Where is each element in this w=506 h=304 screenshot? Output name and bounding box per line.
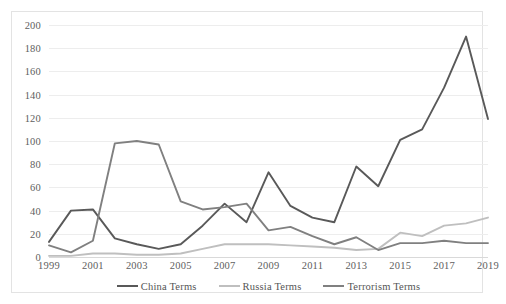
line-chart: 020406080100120140160180200 199920012003… <box>0 0 506 304</box>
y-tick-label: 140 <box>25 89 41 100</box>
y-axis-labels: 020406080100120140160180200 <box>12 25 45 257</box>
legend-item-china-terms[interactable]: China Terms <box>117 281 197 292</box>
y-tick-label: 100 <box>25 136 41 147</box>
legend-swatch-icon <box>117 285 138 288</box>
legend-swatch-icon <box>323 285 344 288</box>
x-tick-label: 2011 <box>302 260 323 271</box>
plot-area <box>49 25 488 257</box>
x-tick-label: 2003 <box>126 260 148 271</box>
legend-item-russia-terms[interactable]: Russia Terms <box>219 281 302 292</box>
x-tick-label: 2013 <box>345 260 367 271</box>
legend-item-terrorism-terms[interactable]: Terrorism Terms <box>323 281 420 292</box>
y-tick-label: 120 <box>25 112 41 123</box>
x-tick-label: 2009 <box>258 260 280 271</box>
legend-label: Terrorism Terms <box>347 281 420 292</box>
chart-legend: China TermsRussia TermsTerrorism Terms <box>49 278 488 294</box>
gridline-0 <box>49 257 488 258</box>
legend-label: China Terms <box>141 281 197 292</box>
x-tick-label: 2007 <box>214 260 236 271</box>
y-tick-label: 180 <box>25 43 41 54</box>
y-tick-label: 80 <box>30 159 41 170</box>
y-tick-label: 200 <box>25 20 41 31</box>
x-tick-label: 2019 <box>477 260 499 271</box>
series-line-russia-terms <box>49 218 488 256</box>
series-lines <box>49 25 488 257</box>
x-tick-label: 2017 <box>433 260 455 271</box>
x-tick-label: 2005 <box>170 260 192 271</box>
x-tick-label: 1999 <box>38 260 60 271</box>
x-axis-labels: 1999200120032005200720092011201320152017… <box>49 260 488 278</box>
legend-label: Russia Terms <box>243 281 302 292</box>
y-tick-label: 60 <box>30 182 41 193</box>
legend-swatch-icon <box>219 285 240 288</box>
y-tick-label: 160 <box>25 66 41 77</box>
x-tick-label: 2015 <box>389 260 411 271</box>
y-tick-label: 20 <box>30 228 41 239</box>
y-tick-label: 40 <box>30 205 41 216</box>
chart-frame: 020406080100120140160180200 199920012003… <box>11 11 483 293</box>
x-tick-label: 2001 <box>82 260 104 271</box>
